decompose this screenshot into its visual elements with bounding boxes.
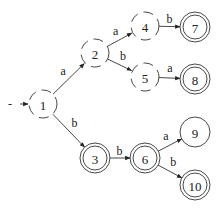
state-7: 7 xyxy=(180,12,210,42)
state-label: 8 xyxy=(192,73,199,88)
state-label: 4 xyxy=(142,20,149,35)
edge-6-9: a xyxy=(157,129,181,151)
state-label: 1 xyxy=(40,98,47,113)
automaton-diagram: ababbabab 12457836910 - xyxy=(0,0,218,213)
state-label: 10 xyxy=(189,179,202,194)
edge-6-10: b xyxy=(157,155,181,178)
state-label: 7 xyxy=(192,21,199,36)
state-1: 1 xyxy=(29,90,57,118)
edge-2-5: b xyxy=(108,49,132,71)
edge-label: b xyxy=(117,144,123,158)
state-8: 8 xyxy=(180,64,210,94)
state-5: 5 xyxy=(131,63,159,91)
state-2: 2 xyxy=(81,39,109,67)
edge-4-7: b xyxy=(159,12,180,26)
start-arrow: - xyxy=(8,97,28,111)
state-3: 3 xyxy=(80,143,110,173)
edge-2-4: a xyxy=(107,24,131,47)
state-label: 9 xyxy=(192,126,199,141)
edge-label: b xyxy=(120,49,126,63)
edges-layer: ababbabab xyxy=(53,12,182,177)
edge-label: a xyxy=(60,64,66,78)
state-label: 5 xyxy=(142,71,149,86)
edge-label: a xyxy=(113,24,119,38)
edge-1-2: a xyxy=(53,64,84,95)
edge-label: b xyxy=(170,155,176,169)
state-label: 6 xyxy=(142,152,149,167)
edge-line xyxy=(157,139,181,152)
state-10: 10 xyxy=(180,170,210,200)
start-marker: - xyxy=(8,97,12,111)
state-6: 6 xyxy=(130,143,160,173)
edge-label: a xyxy=(167,61,173,75)
edge-label: a xyxy=(163,129,169,143)
edge-line xyxy=(53,114,85,147)
edge-line xyxy=(107,33,131,46)
state-label: 3 xyxy=(92,152,99,167)
state-label: 2 xyxy=(92,47,99,62)
edge-3-6: b xyxy=(109,144,130,158)
edge-line xyxy=(159,78,180,79)
edge-label: b xyxy=(71,116,77,130)
edge-5-8: a xyxy=(159,61,180,78)
edge-label: b xyxy=(167,12,173,26)
state-4: 4 xyxy=(131,12,159,40)
edge-1-3: b xyxy=(53,114,85,147)
state-9: 9 xyxy=(180,117,210,147)
edge-line xyxy=(53,64,84,95)
diagram-svg: ababbabab 12457836910 - xyxy=(0,0,218,213)
